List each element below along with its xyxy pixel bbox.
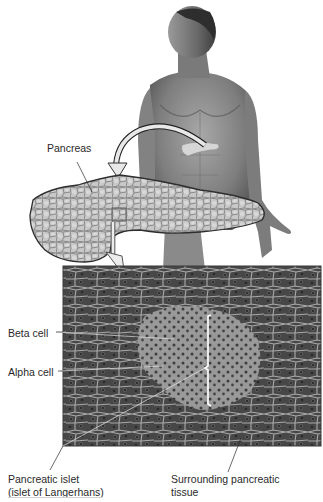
label-alpha-cell: Alpha cell <box>8 366 54 378</box>
illustration <box>0 0 323 502</box>
footer-rule <box>8 497 102 498</box>
leader-islet <box>50 446 63 470</box>
label-surrounding-line1: Surrounding pancreatic <box>171 473 280 485</box>
label-surrounding-line2: tissue <box>171 486 198 498</box>
pancreas-diagram: Pancreas Beta cell Alpha cell Pancreatic… <box>0 0 323 502</box>
label-islet-line1: Pancreatic islet <box>8 473 79 485</box>
label-beta-cell: Beta cell <box>8 327 48 339</box>
label-pancreas: Pancreas <box>47 142 91 154</box>
micrograph <box>63 266 321 446</box>
